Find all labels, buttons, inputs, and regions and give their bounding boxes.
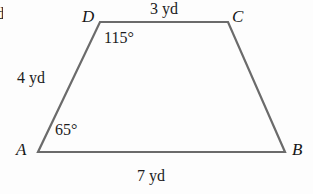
- geometry-figure: d D C B A 3 yd 4 yd 7 yd 115° 65°: [0, 0, 313, 194]
- vertex-label-a: A: [16, 141, 26, 158]
- angle-label-d: 115°: [104, 30, 134, 46]
- trapezoid-drawing: [0, 0, 313, 194]
- vertex-label-c: C: [232, 8, 243, 25]
- vertex-label-d: D: [82, 8, 94, 25]
- angle-label-a: 65°: [55, 122, 77, 138]
- side-length-label-dc: 3 yd: [150, 1, 178, 17]
- vertex-label-b: B: [292, 141, 302, 158]
- side-length-label-ad: 4 yd: [17, 70, 45, 86]
- side-length-label-ab: 7 yd: [137, 168, 165, 184]
